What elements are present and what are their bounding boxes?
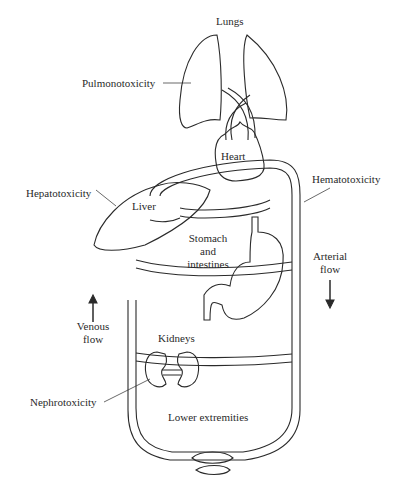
arrow-down-icon (326, 280, 334, 308)
label-hematotoxicity: Hematotoxicity (312, 173, 380, 186)
label-stomach: Stomach and intestines (178, 232, 238, 271)
arrow-up-icon (89, 295, 97, 322)
label-venous-flow: Venous flow (68, 320, 118, 346)
label-kidneys: Kidneys (158, 332, 195, 345)
label-arterial-flow: Arterial flow (305, 250, 355, 276)
label-lungs: Lungs (216, 15, 244, 28)
label-nephrotoxicity: Nephrotoxicity (30, 396, 97, 409)
label-hepatotoxicity: Hepatotoxicity (26, 187, 91, 200)
label-liver: Liver (132, 200, 156, 213)
lungs-icon (179, 35, 286, 140)
label-pulmonotoxicity: Pulmonotoxicity (82, 77, 155, 90)
pelvis-icon (192, 452, 233, 475)
label-lower-extremities: Lower extremities (168, 411, 248, 424)
label-heart: Heart (221, 150, 245, 163)
